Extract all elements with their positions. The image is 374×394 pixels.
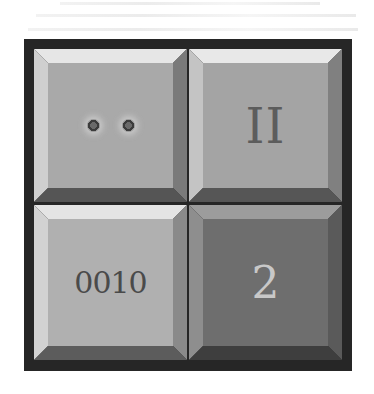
dot-icon (122, 119, 135, 132)
binary-label: 0010 (74, 265, 146, 300)
arabic-numeral-label: 2 (252, 257, 280, 308)
tile-binary[interactable]: 0010 (34, 205, 187, 360)
background-text-fragment (0, 0, 374, 36)
tile-roman-numeral[interactable]: II (189, 49, 342, 202)
roman-numeral-label: II (246, 98, 286, 154)
puzzle-board: II 0010 2 (24, 39, 352, 371)
tile-arabic-numeral[interactable]: 2 (189, 205, 342, 360)
tile-dots[interactable] (34, 49, 187, 202)
dots-pair (87, 119, 135, 132)
dot-icon (87, 119, 100, 132)
